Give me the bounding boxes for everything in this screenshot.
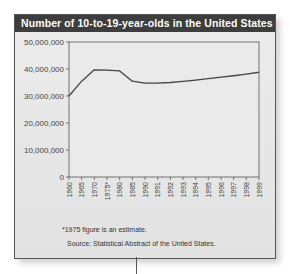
- x-tick-label: 1992: [167, 182, 174, 198]
- y-tick-label: 0: [60, 173, 65, 182]
- x-tick-label: 1985: [129, 182, 136, 198]
- x-tick-label: 1960: [66, 182, 73, 198]
- footnote: *1975 figure is an estimate.: [62, 226, 147, 233]
- x-tick-label: 1991: [154, 182, 161, 198]
- x-tick-label: 1995: [205, 182, 212, 198]
- x-tick-label: 1970: [91, 182, 98, 198]
- callout-stem: [136, 257, 137, 274]
- x-tick-label: 1996: [218, 182, 225, 198]
- source-note: Source: Statistical Abstract of the Unit…: [67, 240, 216, 247]
- x-tick-label: 1980: [116, 182, 123, 198]
- y-tick-label: 20,000,000: [24, 119, 65, 128]
- chart-card: Number of 10-to-19-year-olds in the Unit…: [14, 14, 276, 259]
- y-tick-label: 10,000,000: [24, 146, 65, 155]
- x-tick-label: 1965: [78, 182, 85, 198]
- y-tick-label: 30,000,000: [24, 92, 65, 101]
- y-tick-label: 50,000,000: [24, 38, 65, 47]
- x-tick-label: 1997: [230, 182, 237, 198]
- plot-area: [69, 42, 259, 177]
- y-tick-label: 40,000,000: [24, 65, 65, 74]
- x-tick-label: 1993: [180, 182, 187, 198]
- line-chart: 010,000,00020,000,00030,000,00040,000,00…: [15, 15, 275, 258]
- x-tick-label: 1999: [256, 182, 263, 198]
- x-tick-label: 1994: [192, 182, 199, 198]
- x-tick-label: 1975*: [104, 182, 111, 201]
- x-tick-label: 1990: [142, 182, 149, 198]
- x-tick-label: 1998: [243, 182, 250, 198]
